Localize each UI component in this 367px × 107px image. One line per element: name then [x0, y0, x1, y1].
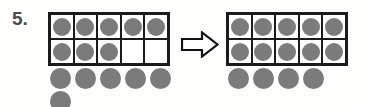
ten-frame-top-row	[229, 15, 345, 40]
ten-frame-top-row	[51, 15, 167, 40]
worksheet-problem: 5.	[0, 0, 367, 107]
ten-frame-cell	[253, 15, 277, 38]
counter-dot	[53, 43, 71, 61]
ten-frame-cell	[229, 15, 253, 38]
ten-frame-cell	[323, 15, 345, 38]
counter-dot	[76, 18, 94, 36]
left-loose-counters	[50, 68, 175, 107]
counter-dot	[278, 43, 296, 61]
ten-frame-cell	[276, 15, 300, 38]
counter-dot	[302, 43, 320, 61]
counter-dot	[75, 68, 96, 89]
ten-frame-bottom-row	[229, 40, 345, 63]
counter-dot	[100, 68, 121, 89]
counter-dot	[254, 18, 272, 36]
loose-counter-row	[50, 91, 175, 107]
ten-frame-cell	[98, 15, 122, 38]
counter-dot	[278, 18, 296, 36]
ten-frame-cell	[229, 40, 253, 63]
counter-dot	[50, 91, 71, 107]
counter-dot	[231, 18, 249, 36]
ten-frame-cell-empty	[145, 40, 167, 63]
ten-frame-cell	[145, 15, 167, 38]
ten-frame-cell	[51, 40, 75, 63]
ten-frame-cell-empty	[122, 40, 146, 63]
loose-counter-row	[228, 68, 328, 89]
counter-dot	[100, 18, 118, 36]
ten-frame-cell	[300, 15, 324, 38]
counter-dot	[53, 18, 71, 36]
ten-frame-cell	[253, 40, 277, 63]
ten-frame-cell	[122, 15, 146, 38]
right-ten-frame	[226, 12, 348, 66]
counter-dot	[76, 43, 94, 61]
counter-dot	[147, 18, 165, 36]
left-ten-frame	[48, 12, 170, 66]
ten-frame-cell	[323, 40, 345, 63]
ten-frame-cell	[75, 40, 99, 63]
counter-dot	[302, 18, 320, 36]
counter-dot	[50, 68, 71, 89]
right-arrow-icon	[181, 31, 219, 58]
ten-frame-cell	[276, 40, 300, 63]
counter-dot	[150, 68, 171, 89]
ten-frame-cell	[51, 15, 75, 38]
counter-dot	[325, 18, 343, 36]
ten-frame-cell	[75, 15, 99, 38]
counter-dot	[228, 68, 249, 89]
counter-dot	[278, 68, 299, 89]
counter-dot	[254, 43, 272, 61]
ten-frame-bottom-row	[51, 40, 167, 63]
ten-frame-cell	[98, 40, 122, 63]
counter-dot	[303, 68, 324, 89]
ten-frame-cell	[300, 40, 324, 63]
right-loose-counters	[228, 68, 328, 89]
loose-counter-row	[50, 68, 175, 89]
counter-dot	[100, 43, 118, 61]
counter-dot	[325, 43, 343, 61]
counter-dot	[124, 18, 142, 36]
counter-dot	[231, 43, 249, 61]
counter-dot	[125, 68, 146, 89]
problem-number-label: 5.	[12, 8, 28, 30]
counter-dot	[253, 68, 274, 89]
